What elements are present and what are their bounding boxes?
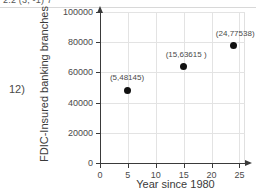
data-point-label: (15,63615 ) bbox=[166, 51, 207, 59]
x-tick-mark bbox=[156, 163, 157, 168]
data-point-marker bbox=[180, 63, 187, 70]
gridline-vertical bbox=[184, 12, 185, 163]
gridline-vertical bbox=[156, 12, 157, 163]
gridline-horizontal bbox=[100, 12, 245, 13]
x-tick-mark bbox=[100, 163, 101, 168]
x-tick-mark bbox=[212, 163, 213, 168]
y-tick-label: 80000 bbox=[68, 38, 93, 47]
y-tick-mark bbox=[96, 103, 101, 104]
gridline-horizontal bbox=[100, 103, 245, 104]
x-axis-arrow-icon bbox=[245, 160, 252, 166]
data-point-label: (5,48145) bbox=[110, 74, 144, 82]
y-tick-mark bbox=[96, 12, 101, 13]
x-tick-mark bbox=[239, 163, 240, 168]
y-tick-label: 60000 bbox=[68, 68, 93, 77]
x-tick-label: 0 bbox=[90, 171, 110, 180]
x-tick-mark bbox=[128, 163, 129, 168]
y-tick-mark bbox=[96, 133, 101, 134]
gridline-vertical bbox=[212, 12, 213, 163]
y-tick-label: 40000 bbox=[68, 99, 93, 108]
y-tick-mark bbox=[96, 72, 101, 73]
y-tick-mark bbox=[96, 42, 101, 43]
x-axis-title: Year since 1980 bbox=[108, 178, 243, 190]
data-point-marker bbox=[230, 42, 237, 49]
y-axis-title: FDIC-Insured banking branches bbox=[38, 4, 50, 164]
scatter-chart: 020000400006000080000100000 0510152025 F… bbox=[0, 0, 256, 193]
x-axis-line bbox=[100, 163, 246, 164]
gridline-horizontal bbox=[100, 133, 245, 134]
y-tick-label: 0 bbox=[88, 159, 93, 168]
y-axis-line bbox=[100, 12, 101, 164]
y-tick-label: 20000 bbox=[68, 129, 93, 138]
data-point-marker bbox=[124, 87, 131, 94]
y-tick-label: 100000 bbox=[63, 8, 93, 17]
data-point-label: (24,77538) bbox=[216, 30, 255, 38]
gridline-horizontal bbox=[100, 42, 245, 43]
x-tick-mark bbox=[184, 163, 185, 168]
